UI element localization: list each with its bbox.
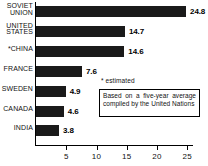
- bar-row: FRANCE7.6: [0, 66, 208, 78]
- bar-value-label: 4.6: [68, 107, 79, 116]
- bar-row: UNITED STATES14.7: [0, 26, 208, 38]
- bar-row: SOVIET UNION24.8: [0, 6, 208, 18]
- bar: [36, 106, 64, 117]
- bar-value-label: 3.8: [63, 126, 74, 135]
- bar: [36, 86, 66, 97]
- bar: [36, 125, 59, 136]
- bar-category-label: SWEDEN: [0, 86, 33, 93]
- x-axis-tick-label: 10: [92, 152, 101, 161]
- bar-value-label: 14.7: [129, 27, 144, 36]
- x-axis-tick: [157, 145, 158, 150]
- bar-value-label: 4.9: [70, 87, 81, 96]
- bar-category-label: *CHINA: [0, 46, 33, 53]
- x-axis-tick: [66, 145, 67, 150]
- x-axis-tick-label: 25: [183, 152, 192, 161]
- x-axis-tick: [127, 145, 128, 150]
- bar-row: *CHINA14.6: [0, 46, 208, 58]
- x-axis-line: [35, 145, 193, 146]
- bar-category-label: INDIA: [0, 125, 33, 132]
- bar-value-label: 24.8: [190, 7, 205, 16]
- bar-value-label: 14.6: [128, 47, 143, 56]
- source-note-box: Based on a five-year average compiled by…: [99, 89, 200, 117]
- x-axis-tick-label: 20: [152, 152, 161, 161]
- x-axis-tick: [187, 145, 188, 150]
- plot-area: SOVIET UNION24.8UNITED STATES14.7*CHINA1…: [0, 0, 208, 166]
- estimated-footnote: * estimated: [101, 77, 135, 84]
- bar-chart: SOVIET UNION24.8UNITED STATES14.7*CHINA1…: [0, 0, 208, 166]
- bar-category-label: SOVIET UNION: [0, 3, 33, 16]
- bar: [36, 66, 82, 77]
- x-axis-tick: [97, 145, 98, 150]
- bar: [36, 46, 124, 57]
- bar-category-label: FRANCE: [0, 66, 33, 73]
- bar-category-label: UNITED STATES: [0, 23, 33, 36]
- x-axis-tick-label: 15: [122, 152, 131, 161]
- bar-row: INDIA3.8: [0, 125, 208, 137]
- bar: [36, 6, 186, 17]
- bar: [36, 26, 125, 37]
- bar-category-label: CANADA: [0, 106, 33, 113]
- bar-value-label: 7.6: [86, 67, 97, 76]
- x-axis-tick-label: 5: [64, 152, 69, 161]
